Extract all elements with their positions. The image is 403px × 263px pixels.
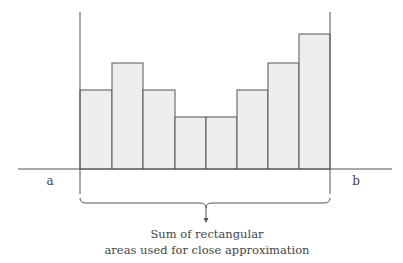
- bar-8: [299, 34, 330, 169]
- caption-line-1: Sum of rectangular: [150, 227, 264, 241]
- bars: [80, 34, 330, 169]
- bar-5: [206, 117, 237, 169]
- label-a: a: [46, 174, 53, 188]
- bar-6: [237, 90, 268, 169]
- curly-brace: [80, 198, 330, 208]
- label-b: b: [352, 174, 360, 188]
- bar-4: [175, 117, 206, 169]
- arrow-head-icon: [204, 218, 209, 223]
- bar-7: [268, 63, 299, 169]
- bar-1: [80, 90, 112, 169]
- bar-2: [112, 63, 143, 169]
- caption-line-2: areas used for close approximation: [105, 243, 311, 257]
- bar-3: [143, 90, 175, 169]
- riemann-diagram: a b Sum of rectangular areas used for cl…: [0, 0, 403, 263]
